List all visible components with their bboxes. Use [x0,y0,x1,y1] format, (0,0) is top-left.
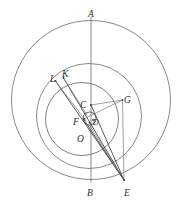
labels-group: A B C D E F G K L O [49,9,131,198]
vertex-dot-f [83,118,85,120]
vertex-dot-c [90,104,92,106]
segment-ke [64,78,125,180]
geometry-figure-canvas: A B C D E F G K L O [0,0,181,203]
label-point-d: D [92,117,100,127]
geometry-figure-root: A B C D E F G K L O [0,0,181,203]
vertex-dot-e [123,179,125,181]
label-point-f: F [72,117,79,127]
segment-ge [123,100,125,180]
label-point-o: O [77,134,84,144]
label-point-c: C [80,100,87,110]
vertex-dot-o [89,122,91,124]
segment-oe [90,125,125,180]
label-point-g: G [124,95,131,105]
segments-group [56,17,125,182]
label-point-e: E [123,188,130,198]
label-point-k: K [61,69,69,79]
label-point-l: L [49,74,55,84]
label-point-a: A [87,9,94,19]
label-point-b: B [87,188,93,198]
